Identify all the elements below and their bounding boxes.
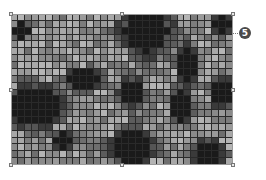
callout-number: 5 bbox=[242, 29, 248, 38]
mosaic-cell bbox=[25, 96, 32, 103]
mosaic-cell bbox=[39, 158, 46, 165]
mosaic-cell bbox=[143, 41, 150, 48]
mosaic-cell bbox=[157, 62, 164, 69]
mosaic-cell bbox=[80, 131, 87, 138]
mosaic-cell bbox=[115, 151, 122, 158]
mosaic-cell bbox=[171, 55, 178, 62]
mosaic-cell bbox=[143, 35, 150, 42]
mosaic-cell bbox=[25, 83, 32, 90]
mosaic-cell bbox=[67, 76, 74, 83]
mosaic-cell bbox=[11, 110, 18, 117]
mosaic-cell bbox=[143, 76, 150, 83]
mosaic-cell bbox=[94, 144, 101, 151]
mosaic-cell bbox=[171, 151, 178, 158]
mosaic-cell bbox=[115, 83, 122, 90]
mosaic-cell bbox=[25, 55, 32, 62]
resize-handle-bottom-middle[interactable] bbox=[120, 163, 124, 167]
resize-handle-middle-left[interactable] bbox=[9, 88, 13, 92]
resize-handle-top-middle[interactable] bbox=[120, 12, 124, 16]
pixelated-image[interactable] bbox=[11, 14, 233, 165]
mosaic-cell bbox=[212, 144, 219, 151]
mosaic-cell bbox=[53, 131, 60, 138]
mosaic-cell bbox=[18, 144, 25, 151]
mosaic-cell bbox=[11, 103, 18, 110]
mosaic-cell bbox=[94, 69, 101, 76]
mosaic-cell bbox=[171, 138, 178, 145]
mosaic-cell bbox=[115, 28, 122, 35]
mosaic-cell bbox=[108, 117, 115, 124]
mosaic-cell bbox=[25, 28, 32, 35]
mosaic-cell bbox=[80, 158, 87, 165]
mosaic-cell bbox=[184, 124, 191, 131]
mosaic-cell bbox=[136, 21, 143, 28]
mosaic-cell bbox=[67, 96, 74, 103]
mosaic-cell bbox=[226, 55, 233, 62]
mosaic-cell bbox=[205, 103, 212, 110]
mosaic-cell bbox=[108, 55, 115, 62]
resize-handle-top-left[interactable] bbox=[9, 12, 13, 16]
mosaic-cell bbox=[39, 103, 46, 110]
mosaic-cell bbox=[136, 35, 143, 42]
mosaic-cell bbox=[178, 69, 185, 76]
mosaic-cell bbox=[184, 76, 191, 83]
mosaic-cell bbox=[108, 151, 115, 158]
resize-handle-middle-right[interactable] bbox=[231, 88, 235, 92]
mosaic-cell bbox=[18, 69, 25, 76]
mosaic-cell bbox=[157, 96, 164, 103]
mosaic-cell bbox=[108, 76, 115, 83]
mosaic-cell bbox=[178, 62, 185, 69]
mosaic-cell bbox=[150, 131, 157, 138]
mosaic-cell bbox=[60, 35, 67, 42]
mosaic-cell bbox=[136, 158, 143, 165]
mosaic-cell bbox=[32, 96, 39, 103]
mosaic-cell bbox=[39, 48, 46, 55]
mosaic-cell bbox=[101, 62, 108, 69]
mosaic-cell bbox=[73, 151, 80, 158]
mosaic-cell bbox=[219, 14, 226, 21]
mosaic-cell bbox=[129, 138, 136, 145]
mosaic-cell bbox=[115, 124, 122, 131]
mosaic-cell bbox=[18, 103, 25, 110]
mosaic-cell bbox=[157, 28, 164, 35]
mosaic-cell bbox=[129, 117, 136, 124]
mosaic-cell bbox=[53, 14, 60, 21]
mosaic-cell bbox=[46, 83, 53, 90]
mosaic-cell bbox=[46, 28, 53, 35]
mosaic-cell bbox=[136, 14, 143, 21]
mosaic-cell bbox=[39, 117, 46, 124]
mosaic-cell bbox=[184, 41, 191, 48]
mosaic-cell bbox=[191, 35, 198, 42]
mosaic-cell bbox=[178, 48, 185, 55]
resize-handle-bottom-left[interactable] bbox=[9, 163, 13, 167]
mosaic-cell bbox=[184, 90, 191, 97]
mosaic-cell bbox=[226, 69, 233, 76]
mosaic-cell bbox=[46, 62, 53, 69]
resize-handle-bottom-right[interactable] bbox=[231, 163, 235, 167]
mosaic-cell bbox=[60, 131, 67, 138]
mosaic-cell bbox=[212, 90, 219, 97]
mosaic-cell bbox=[11, 41, 18, 48]
mosaic-cell bbox=[191, 21, 198, 28]
mosaic-cell bbox=[108, 83, 115, 90]
mosaic-cell bbox=[205, 117, 212, 124]
resize-handle-top-right[interactable] bbox=[231, 12, 235, 16]
mosaic-cell bbox=[53, 41, 60, 48]
mosaic-cell bbox=[46, 138, 53, 145]
mosaic-cell bbox=[73, 62, 80, 69]
mosaic-cell bbox=[87, 14, 94, 21]
mosaic-cell bbox=[191, 28, 198, 35]
mosaic-cell bbox=[164, 138, 171, 145]
mosaic-cell bbox=[60, 41, 67, 48]
mosaic-cell bbox=[25, 117, 32, 124]
mosaic-cell bbox=[136, 41, 143, 48]
mosaic-cell bbox=[164, 28, 171, 35]
mosaic-cell bbox=[25, 14, 32, 21]
mosaic-cell bbox=[171, 158, 178, 165]
mosaic-cell bbox=[25, 131, 32, 138]
mosaic-cell bbox=[136, 151, 143, 158]
mosaic-cell bbox=[73, 55, 80, 62]
mosaic-cell bbox=[25, 48, 32, 55]
mosaic-cell bbox=[53, 83, 60, 90]
mosaic-cell bbox=[67, 14, 74, 21]
mosaic-cell bbox=[80, 55, 87, 62]
